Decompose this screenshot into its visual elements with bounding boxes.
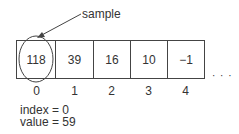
highlight-ellipse	[19, 36, 53, 82]
arrowhead-icon	[37, 32, 45, 38]
pointer-arrow-line	[40, 14, 81, 36]
value-variable: value = 59	[20, 116, 76, 128]
variable-state: index = 0 value = 59	[20, 104, 76, 128]
